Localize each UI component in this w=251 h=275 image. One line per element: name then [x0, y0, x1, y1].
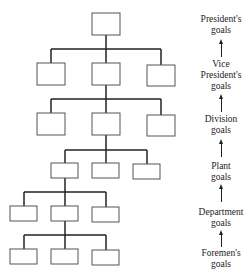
org-chart	[0, 0, 251, 275]
box-president	[92, 13, 120, 35]
label-vp-goals: Vice President's goals	[191, 59, 251, 92]
box-department-1	[10, 206, 37, 221]
box-plant-2	[92, 163, 119, 178]
box-foremen-1	[10, 249, 37, 264]
arrow-up-icon	[221, 188, 222, 202]
arrow-up-icon	[221, 143, 222, 157]
box-vp-3	[147, 65, 175, 86]
box-department-3	[92, 207, 119, 222]
box-foremen-3	[92, 250, 119, 265]
box-division-2	[92, 113, 120, 135]
box-division-1	[37, 113, 65, 135]
arrow-up-icon	[221, 98, 222, 112]
label-plant-goals: Plant goals	[191, 161, 251, 183]
box-division-3	[147, 115, 175, 136]
box-plant-3	[133, 164, 160, 179]
arrow-up-icon	[221, 234, 222, 247]
label-president-goals: President's goals	[191, 14, 251, 36]
label-foremen-goals: Foremen's goals	[191, 248, 251, 270]
arrow-up-icon	[221, 43, 222, 57]
box-plant-1	[51, 163, 78, 178]
box-vp-1	[37, 63, 65, 85]
position-boxes	[10, 13, 175, 265]
label-department-goals: Department goals	[189, 207, 251, 229]
box-vp-2	[92, 63, 120, 85]
label-division-goals: Division goals	[191, 114, 251, 136]
box-foremen-2	[51, 249, 78, 264]
box-department-2	[51, 206, 78, 221]
